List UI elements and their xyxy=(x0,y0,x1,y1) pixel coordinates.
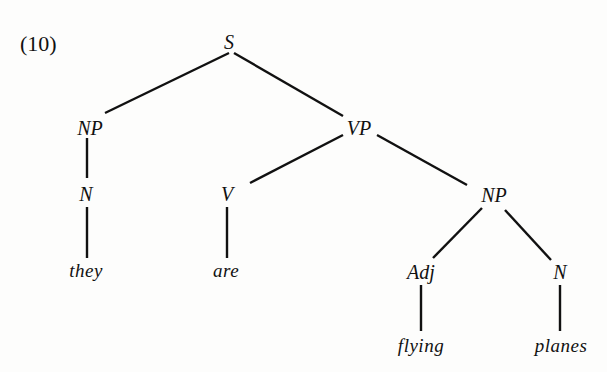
node-np-subject: NP xyxy=(77,118,103,138)
edge-np-adj xyxy=(433,208,482,258)
node-vp: VP xyxy=(347,118,371,138)
word-flying: flying xyxy=(398,336,444,355)
edge-vp-np xyxy=(377,135,467,185)
node-n-object: N xyxy=(553,262,566,282)
word-they: they xyxy=(69,261,103,280)
word-planes: planes xyxy=(535,336,588,355)
syntax-tree-diagram: (10) S NP VP N V NP Adj N they are flyin… xyxy=(0,0,607,372)
edge-s-np xyxy=(105,53,229,113)
node-np-object: NP xyxy=(481,185,507,205)
edge-np-n-object xyxy=(505,210,551,260)
edge-s-vp xyxy=(234,53,343,116)
node-adj: Adj xyxy=(407,262,435,282)
node-n-subject: N xyxy=(79,184,92,204)
node-s: S xyxy=(224,32,234,52)
word-are: are xyxy=(213,261,239,280)
node-v: V xyxy=(221,184,233,204)
edge-vp-v xyxy=(250,135,343,183)
